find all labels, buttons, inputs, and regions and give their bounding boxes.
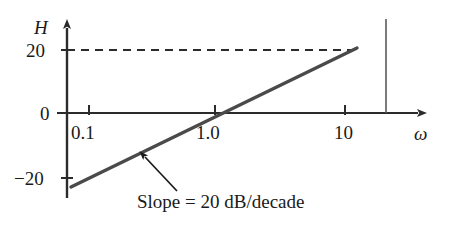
- x-tick-label-1.0: 1.0: [196, 123, 220, 142]
- slope-annotation-arrow: [145, 157, 177, 191]
- y-tick-label-0: 0: [40, 104, 50, 123]
- x-tick-label-10: 10: [334, 123, 353, 142]
- y-tick-label-minus-20: −20: [14, 169, 44, 188]
- slope-annotation-text: Slope = 20 dB/decade: [137, 192, 304, 211]
- bode-plot-figure: H 20 0 −20 0.1 1.0 10 ω Slope = 20 dB/de…: [0, 0, 450, 237]
- x-tick-label-0.1: 0.1: [71, 123, 95, 142]
- y-tick-label-20: 20: [26, 41, 45, 60]
- magnitude-asymptote-line: [71, 48, 357, 187]
- x-axis-label: ω: [414, 124, 427, 143]
- y-axis-label: H: [34, 18, 48, 37]
